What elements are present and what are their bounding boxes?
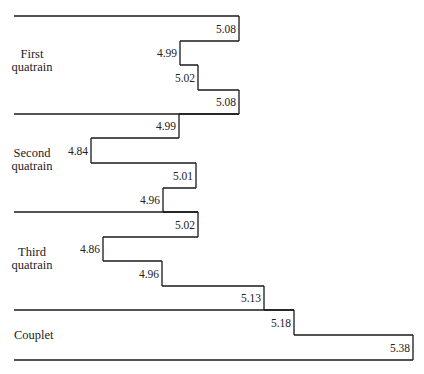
value-label: 4.84 — [68, 145, 88, 157]
section-label: quatrain — [12, 60, 54, 74]
value-label: 4.99 — [156, 120, 176, 132]
section-label: quatrain — [12, 159, 54, 173]
value-label: 5.08 — [216, 23, 236, 35]
step-chart: 5.084.995.025.084.994.845.014.965.024.86… — [0, 0, 424, 374]
value-label: 5.08 — [216, 96, 236, 108]
section-label: Couplet — [14, 328, 54, 342]
value-label: 4.96 — [140, 194, 160, 206]
value-label: 5.02 — [175, 219, 195, 231]
value-label: 4.99 — [157, 47, 177, 59]
value-label: 5.38 — [390, 342, 410, 354]
value-labels: 5.084.995.025.084.994.845.014.965.024.86… — [68, 23, 410, 354]
section-separators — [14, 16, 413, 360]
step-path — [91, 16, 413, 360]
value-label: 4.86 — [80, 243, 100, 255]
section-label: Third — [18, 245, 47, 259]
step-line — [91, 16, 413, 360]
section-label: Second — [14, 146, 52, 160]
value-label: 5.01 — [173, 170, 193, 182]
value-label: 4.96 — [139, 268, 159, 280]
value-label: 5.18 — [271, 317, 291, 329]
value-label: 5.13 — [241, 292, 261, 304]
section-label: First — [21, 47, 44, 61]
section-label: quatrain — [12, 258, 54, 272]
section-labels: FirstquatrainSecondquatrainThirdquatrain… — [12, 47, 55, 342]
value-label: 5.02 — [175, 72, 195, 84]
